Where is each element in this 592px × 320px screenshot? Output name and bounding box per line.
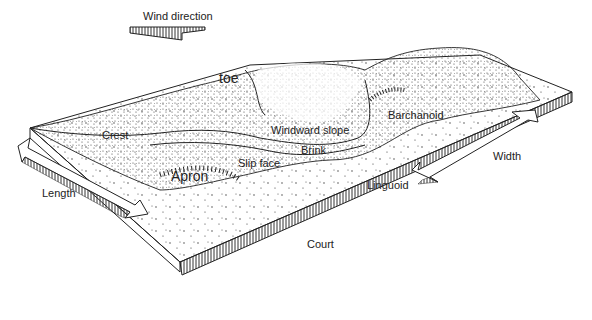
- slip-face-label: Slip face: [238, 157, 280, 169]
- wind-direction-label: Wind direction: [143, 10, 213, 22]
- court-label: Court: [307, 238, 334, 250]
- width-label: Width: [493, 150, 521, 162]
- windward-slope-label: Windward slope: [271, 124, 349, 136]
- toe-label: toe: [219, 70, 239, 86]
- apron-label: Apron: [171, 168, 208, 184]
- linguoid-label: Linguoid: [367, 179, 409, 191]
- crest-label: Crest: [102, 129, 128, 141]
- length-label: Length: [42, 187, 76, 199]
- barchanoid-label: Barchanoid: [388, 109, 444, 121]
- wind-direction-arrow: [130, 27, 205, 40]
- dune-diagram: Wind direction toe Crest Windward slope …: [0, 0, 592, 320]
- brink-label: Brink: [301, 144, 327, 156]
